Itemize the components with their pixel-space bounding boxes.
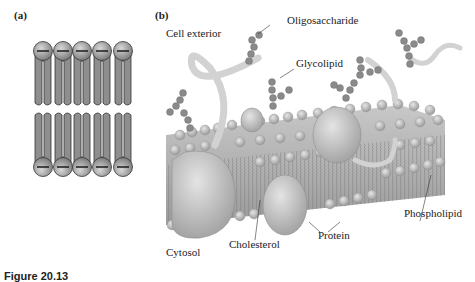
label-cell-exterior: Cell exterior [166,27,221,39]
label-glycolipid: Glycolipid [296,57,343,69]
label-protein: Protein [318,229,350,241]
label-cytosol: Cytosol [166,246,200,258]
label-phospholipid: Phospholipid [404,207,462,219]
label-oligosaccharide: Oligosaccharide [287,14,358,26]
label-cholesterol: Cholesterol [229,238,280,250]
figure-caption: Figure 20.13 [4,270,68,282]
